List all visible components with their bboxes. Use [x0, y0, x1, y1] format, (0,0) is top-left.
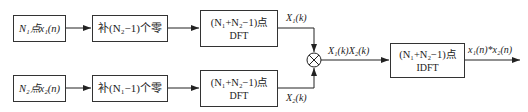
input-x1-label: N₁点x₁(n): [19, 22, 60, 35]
dft-2-box: (N₁+N₂−1)点 DFT: [200, 70, 278, 107]
idft-box: (N₁+N₂−1)点 IDFT: [390, 43, 465, 78]
dft-2-size: (N₁+N₂−1)点: [211, 76, 268, 89]
input-x2-box: N₂点x₂(n): [13, 75, 66, 102]
zero-pad-1-box: 补(N₂−1)个零: [92, 15, 168, 42]
result-label: x₁(n)*x₂(n): [468, 44, 512, 55]
dft-1-size: (N₁+N₂−1)点: [211, 16, 268, 29]
zero-pad-1-label: 补(N₂−1)个零: [98, 22, 162, 35]
idft-label: IDFT: [416, 61, 438, 74]
input-x2-label: N₂点x₂(n): [19, 82, 60, 95]
dft-1-label: DFT: [230, 29, 249, 42]
product-label: X₁(k)X₂(k): [328, 45, 369, 56]
dft-2-label: DFT: [230, 89, 249, 102]
input-x1-box: N₁点x₁(n): [13, 15, 66, 42]
zero-pad-2-box: 补(N₁−1)个零: [92, 75, 168, 102]
x2k-label: X₂(k): [286, 92, 307, 103]
zero-pad-2-label: 补(N₁−1)个零: [98, 82, 162, 95]
x1k-label: X₁(k): [286, 12, 307, 23]
dft-1-box: (N₁+N₂−1)点 DFT: [200, 10, 278, 47]
idft-size: (N₁+N₂−1)点: [399, 48, 456, 61]
